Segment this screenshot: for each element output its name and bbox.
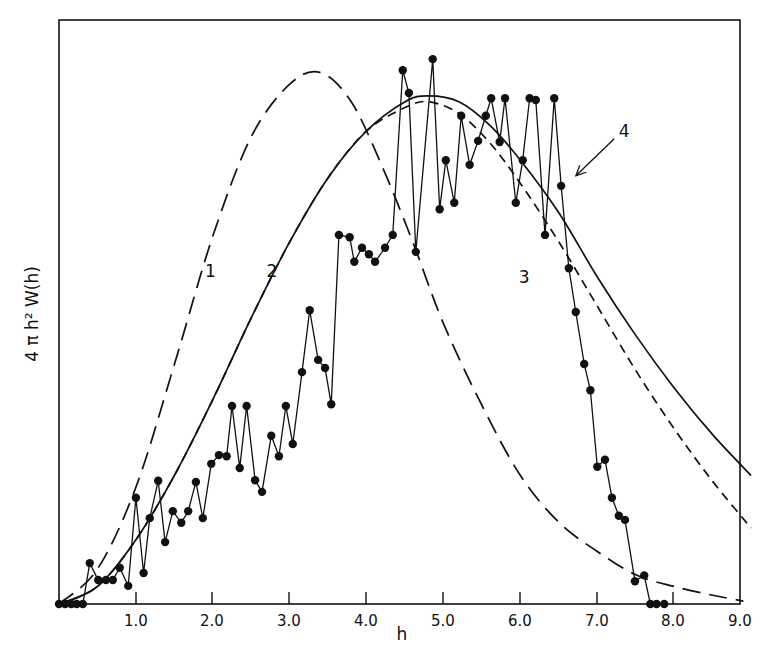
data-point bbox=[601, 456, 609, 464]
data-point bbox=[282, 402, 290, 410]
data-point bbox=[236, 464, 244, 472]
data-point bbox=[215, 451, 223, 459]
data-point bbox=[565, 264, 573, 272]
data-point bbox=[399, 66, 407, 74]
x-tick-label: 3.0 bbox=[277, 612, 301, 630]
data-point bbox=[267, 432, 275, 440]
data-point bbox=[242, 402, 250, 410]
data-point bbox=[207, 460, 215, 468]
curve-label-4: 4 bbox=[619, 121, 630, 141]
data-point bbox=[450, 199, 458, 207]
data-point bbox=[660, 600, 668, 608]
data-point bbox=[298, 368, 306, 376]
curve-labels: 1234 bbox=[205, 121, 630, 287]
data-point bbox=[381, 244, 389, 252]
data-point bbox=[321, 364, 329, 372]
data-point bbox=[532, 96, 540, 104]
data-point bbox=[429, 55, 437, 63]
data-point bbox=[495, 138, 503, 146]
curve-label-1: 1 bbox=[205, 261, 216, 281]
data-point bbox=[184, 507, 192, 515]
data-point bbox=[154, 477, 162, 485]
data-point bbox=[580, 360, 588, 368]
x-tick-label: 5.0 bbox=[431, 612, 455, 630]
data-point bbox=[512, 199, 520, 207]
data-point bbox=[621, 516, 629, 524]
data-point bbox=[228, 402, 236, 410]
data-point bbox=[365, 250, 373, 258]
data-point bbox=[345, 233, 353, 241]
data-point bbox=[314, 356, 322, 364]
data-point bbox=[389, 231, 397, 239]
data-point bbox=[251, 476, 259, 484]
data-point bbox=[501, 94, 509, 102]
data-point bbox=[94, 576, 102, 584]
data-point bbox=[116, 564, 124, 572]
chart: 1.02.03.04.05.06.07.08.09.0 1234 h 4 π h… bbox=[0, 0, 772, 665]
data-points bbox=[55, 55, 669, 608]
data-point bbox=[412, 248, 420, 256]
data-point bbox=[327, 400, 335, 408]
data-point bbox=[550, 94, 558, 102]
series-1-curve bbox=[59, 72, 743, 604]
data-point bbox=[572, 308, 580, 316]
x-tick-label: 6.0 bbox=[508, 612, 532, 630]
arrow-icon bbox=[576, 139, 614, 176]
data-point bbox=[608, 494, 616, 502]
x-tick-label: 7.0 bbox=[585, 612, 609, 630]
data-point bbox=[289, 440, 297, 448]
data-point bbox=[222, 452, 230, 460]
data-point bbox=[146, 514, 154, 522]
y-axis-title: 4 π h² W(h) bbox=[22, 266, 42, 362]
curve-label-2: 2 bbox=[267, 261, 278, 281]
data-point bbox=[192, 478, 200, 486]
data-point bbox=[442, 156, 450, 164]
data-point bbox=[109, 576, 117, 584]
curves bbox=[59, 59, 751, 604]
data-point bbox=[640, 571, 648, 579]
data-point bbox=[482, 112, 490, 120]
data-point bbox=[371, 258, 379, 266]
data-point bbox=[86, 559, 94, 567]
data-point bbox=[199, 514, 207, 522]
data-point bbox=[541, 231, 549, 239]
data-point bbox=[258, 488, 266, 496]
data-point bbox=[177, 519, 185, 527]
data-point bbox=[465, 161, 473, 169]
data-point bbox=[652, 600, 660, 608]
data-point bbox=[305, 306, 313, 314]
x-tick-label: 1.0 bbox=[124, 612, 148, 630]
data-point bbox=[124, 582, 132, 590]
data-point bbox=[405, 89, 413, 97]
x-tick-label: 2.0 bbox=[200, 612, 224, 630]
data-point bbox=[275, 452, 283, 460]
data-point bbox=[79, 600, 87, 608]
x-tick-label: 4.0 bbox=[354, 612, 378, 630]
data-point bbox=[631, 577, 639, 585]
data-point bbox=[457, 112, 465, 120]
data-point bbox=[474, 137, 482, 145]
data-point bbox=[586, 386, 594, 394]
data-point bbox=[161, 538, 169, 546]
data-point bbox=[132, 494, 140, 502]
data-point bbox=[350, 258, 358, 266]
x-tick-labels: 1.02.03.04.05.06.07.08.09.0 bbox=[124, 612, 752, 630]
data-point bbox=[557, 182, 565, 190]
x-axis-title: h bbox=[397, 624, 408, 644]
data-point bbox=[139, 569, 147, 577]
data-point bbox=[169, 507, 177, 515]
x-ticks bbox=[136, 592, 673, 604]
x-tick-label: 8.0 bbox=[661, 612, 685, 630]
series-2-curve bbox=[59, 96, 751, 604]
data-point bbox=[358, 244, 366, 252]
data-point bbox=[335, 231, 343, 239]
data-point bbox=[519, 156, 527, 164]
plot-frame bbox=[59, 20, 740, 604]
x-tick-label: 9.0 bbox=[728, 612, 752, 630]
curve-label-3: 3 bbox=[519, 267, 530, 287]
data-point bbox=[487, 94, 495, 102]
data-point bbox=[593, 463, 601, 471]
data-point bbox=[435, 205, 443, 213]
